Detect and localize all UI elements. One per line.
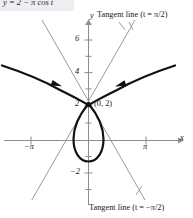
parametric-curve-figure: y = 2 − π cos t x y −π π 6 4 2 −2 (0, 2)… [0, 0, 193, 218]
y-tick-label-minus-2: −2 [70, 168, 80, 176]
x-tick-label-minus-pi: −π [24, 143, 34, 151]
x-tick-label-pi: π [143, 143, 147, 151]
y-tick-label-6: 6 [75, 35, 79, 43]
y-tick-label-4: 4 [75, 68, 79, 76]
y-tick-label-2: 2 [75, 100, 79, 108]
point-0-2-marker [86, 102, 91, 107]
equation-label: y = 2 − π cos t [3, 0, 53, 7]
equation-label-box: y = 2 − π cos t [0, 0, 74, 11]
tangent-lower-label: Tangent line (t = −π/2) [89, 204, 164, 212]
axes-group [4, 23, 178, 205]
curve-arrow-left [51, 80, 62, 86]
point-0-2-label: (0, 2) [94, 100, 112, 108]
figure-canvas [0, 0, 193, 218]
tangent-upper-label: Tangent line (t = π/2) [97, 11, 168, 19]
x-axis-label: x [180, 134, 184, 142]
y-axis-label: y [90, 12, 94, 20]
curve-arrow-right [115, 80, 127, 86]
